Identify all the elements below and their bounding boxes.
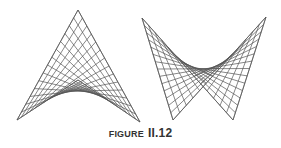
figure-caption: FIGUREII.12 [0, 123, 281, 141]
left-ruled-surface [17, 10, 140, 122]
right-bowtie-surface [142, 17, 266, 120]
caption-word: FIGURE [109, 129, 144, 139]
caption-number: II.12 [148, 126, 172, 140]
